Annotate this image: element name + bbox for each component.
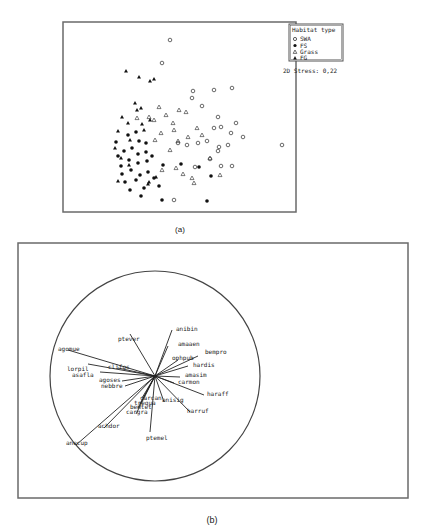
legend-label-fg: FG [300,54,308,61]
data-point-swa [196,141,200,145]
data-point-swa [226,143,230,147]
data-point-fg [113,146,117,150]
data-point-grass [172,128,176,132]
vector-label-haraff: haraff [207,390,229,397]
data-point-grass [164,113,168,117]
data-point-fg [127,163,131,167]
vector-label-amaaen: amaaen [178,340,200,347]
data-point-grass [153,138,157,142]
data-point-swa [234,121,238,125]
data-point-fg [135,108,139,112]
legend: Habitat type SWA FS Grass FG [289,24,343,61]
vector-hardis [155,366,188,376]
data-point-swa [212,126,216,130]
vector-label-bempro: bempro [205,348,227,356]
data-point-swa [241,135,245,139]
data-point-fs [146,170,150,174]
data-point-fs [139,194,143,198]
data-point-grass [181,172,185,176]
vector-label-hardis: hardis [193,361,215,368]
data-point-swa [216,115,220,119]
data-point-fs [114,140,118,144]
data-point-swa [205,139,209,143]
data-point-fg [140,122,144,126]
data-point-swa [216,149,220,153]
data-point-fs [197,165,201,169]
data-point-fs [123,180,127,184]
vector-label-agomue: agomue [58,345,80,353]
data-point-fg [133,101,137,105]
data-point-swa [230,164,234,168]
stress-label: 2D Stress: 0,22 [283,67,338,74]
data-point-grass [171,121,175,125]
data-point-grass [184,110,188,114]
species-vectors: agomuepteveranibinamaaenbemproophpubhard… [58,325,229,447]
data-point-grass [174,166,178,170]
vector-label-amasim: amasim [185,371,207,378]
data-point-fs [136,152,140,156]
vector-label-clifos: clifos [108,363,130,370]
data-point-fs [144,141,148,145]
data-point-fg [139,106,143,110]
data-point-swa [280,143,284,147]
data-point-swa [217,145,221,149]
vector-label-harruf: harruf [187,407,209,414]
panel-a-frame [63,22,296,212]
legend-title: Habitat type [292,26,336,34]
data-point-grass [168,148,172,152]
scatter-points [113,38,284,203]
data-point-swa [212,88,216,92]
caption-a: (a) [160,225,200,234]
data-point-grass [152,118,156,122]
data-point-fs [179,162,183,166]
data-point-fg [126,121,130,125]
vector-label-anibin: anibin [176,325,198,332]
vector-label-nebbre: nebbre [101,382,123,389]
data-point-fs [144,150,148,154]
data-point-fs [160,198,164,202]
vector-label-carmon: carmon [178,378,200,385]
data-point-swa [168,38,172,42]
data-point-fs [127,158,131,162]
vector-label-asafla: asafla [72,371,94,378]
data-point-fs [126,133,130,137]
data-point-grass [186,135,190,139]
data-point-swa [190,96,194,100]
data-point-fs [157,184,161,188]
data-point-swa [185,143,189,147]
data-point-swa [193,165,197,169]
data-point-fg [116,129,120,133]
data-point-fs [130,146,134,150]
data-point-swa [230,86,234,90]
legend-filled-circle-icon [293,44,296,47]
vector-label-cargra: cargra [126,408,148,416]
data-point-grass [195,126,199,130]
data-point-swa [219,164,223,168]
data-point-fs [119,164,123,168]
data-point-fg [152,77,156,81]
data-point-grass [157,105,161,109]
data-point-fs [161,163,165,167]
data-point-grass [160,168,164,172]
vector-label-ptever: ptever [118,335,140,343]
data-point-swa [200,104,204,108]
data-point-fg [137,75,141,79]
data-point-fg [142,128,146,132]
data-point-swa [191,89,195,93]
data-point-grass [147,115,151,119]
data-point-swa [229,131,233,135]
data-point-fs [120,172,124,176]
data-point-grass [218,173,222,177]
data-point-grass [208,156,212,160]
vector-amasim [155,376,180,377]
data-point-fs [134,130,138,134]
data-point-fs [145,159,149,163]
data-point-grass [177,108,181,112]
data-point-fs [209,174,213,178]
data-point-swa [160,61,164,65]
data-point-fg [120,115,124,119]
data-point-fs [136,161,140,165]
data-point-fg [128,138,132,142]
data-point-grass [135,116,139,120]
data-point-fs [116,154,120,158]
